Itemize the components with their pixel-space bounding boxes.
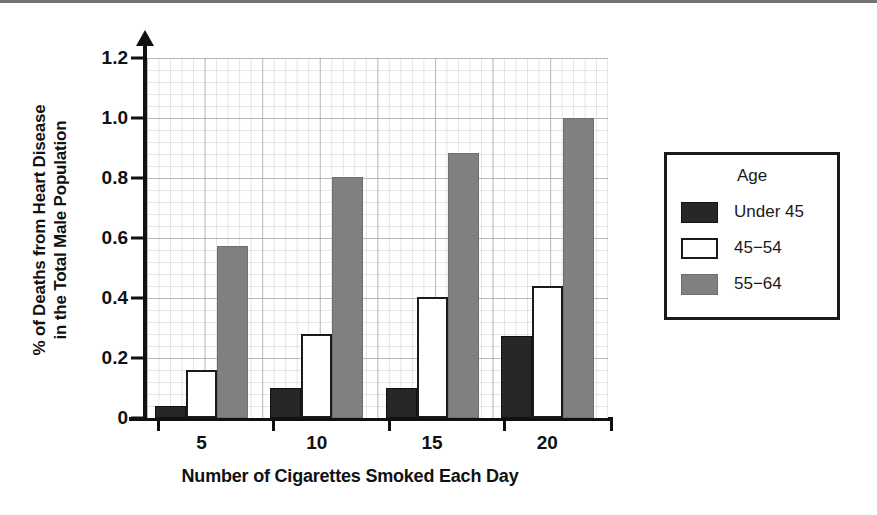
y-tick-label: 0.2 bbox=[82, 347, 128, 369]
y-tick-mark bbox=[131, 177, 147, 180]
x-tick-mark bbox=[157, 417, 160, 431]
legend-swatch bbox=[681, 274, 718, 295]
y-tick-mark bbox=[131, 237, 147, 240]
x-tick-mark bbox=[272, 417, 275, 431]
bar bbox=[417, 297, 448, 419]
bar bbox=[301, 334, 332, 418]
x-tick-label: 5 bbox=[172, 432, 232, 454]
y-tick-label: 1.2 bbox=[82, 47, 128, 69]
y-tick-mark bbox=[131, 117, 147, 120]
bar bbox=[270, 388, 301, 418]
bar bbox=[155, 406, 186, 418]
legend-item-label: 55−64 bbox=[734, 274, 782, 294]
legend-item: Under 45 bbox=[667, 194, 837, 230]
scan-edge-artifact bbox=[0, 0, 877, 3]
y-axis-title-line2: in the Total Male Population bbox=[50, 105, 71, 356]
bar bbox=[386, 388, 417, 418]
bar bbox=[186, 370, 217, 418]
legend-item: 45−54 bbox=[667, 230, 837, 266]
legend-item-label: Under 45 bbox=[734, 202, 804, 222]
y-tick-mark bbox=[131, 57, 147, 60]
x-tick-label: 15 bbox=[402, 432, 462, 454]
y-axis-title-line1: % of Deaths from Heart Disease bbox=[30, 105, 49, 356]
bar bbox=[448, 153, 479, 419]
legend-item: 55−64 bbox=[667, 266, 837, 302]
y-tick-label: 1.0 bbox=[82, 107, 128, 129]
bars-layer bbox=[147, 58, 608, 418]
y-tick-mark bbox=[131, 417, 147, 420]
x-tick-label: 20 bbox=[517, 432, 577, 454]
legend-swatch bbox=[681, 202, 718, 223]
bar bbox=[532, 286, 563, 418]
y-tick-label: 0.4 bbox=[82, 287, 128, 309]
y-tick-mark bbox=[131, 357, 147, 360]
y-tick-label: 0.8 bbox=[82, 167, 128, 189]
x-axis-title: Number of Cigarettes Smoked Each Day bbox=[60, 466, 640, 487]
x-tick-label: 10 bbox=[287, 432, 347, 454]
x-tick-mark bbox=[503, 417, 506, 431]
x-tick-mark-end bbox=[610, 417, 613, 431]
bar bbox=[217, 246, 248, 419]
y-axis-arrowhead-icon bbox=[136, 30, 154, 46]
legend-rows: Under 4545−5455−64 bbox=[667, 194, 837, 302]
legend-title: Age bbox=[667, 166, 837, 186]
legend: Age Under 4545−5455−64 bbox=[664, 152, 840, 320]
bar bbox=[332, 177, 363, 419]
bar bbox=[563, 118, 594, 418]
bar bbox=[501, 336, 532, 419]
bar-chart-figure: % of Deaths from Heart Disease in the To… bbox=[0, 0, 877, 515]
legend-swatch bbox=[681, 238, 718, 259]
legend-item-label: 45−54 bbox=[734, 238, 782, 258]
y-tick-label: 0.6 bbox=[82, 227, 128, 249]
x-tick-mark bbox=[388, 417, 391, 431]
plot-area bbox=[147, 58, 608, 418]
y-tick-label: 0 bbox=[82, 407, 128, 429]
y-axis-tick-labels: 00.20.40.60.81.01.2 bbox=[78, 0, 128, 515]
y-tick-mark bbox=[131, 297, 147, 300]
